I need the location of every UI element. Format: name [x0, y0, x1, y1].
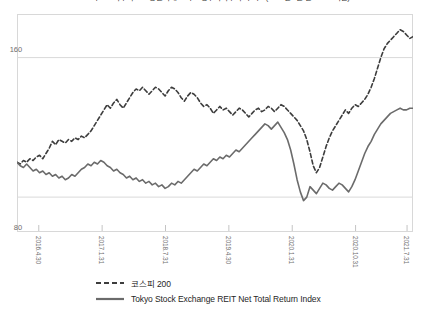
y-axis-tick-label: 80 [0, 223, 22, 232]
x-axis-tick-label: 2020.1.31 [288, 236, 295, 264]
x-axis-tick-label: 2018.7.31 [162, 236, 169, 264]
chart-legend: 코스피 200 Tokyo Stock Exchange REIT Net To… [96, 276, 376, 308]
chart-title: 코스피 200 지수와 도쿄증권거래소 리츠 총수익지수 추이 비교(2016년… [0, 0, 427, 2]
x-axis-tick-label: 2016.4.30 [35, 236, 42, 264]
legend-item-kospi200: 코스피 200 [96, 276, 376, 290]
x-axis-tick-label: 2020.10.31 [352, 236, 359, 268]
x-tick-marks [39, 225, 407, 231]
x-axis-tick-label: 2017.1.31 [98, 236, 105, 264]
solid-line-swatch-icon [96, 294, 124, 304]
series-lines [17, 30, 413, 201]
plot-canvas [17, 14, 413, 232]
legend-label-tse-reit: Tokyo Stock Exchange REIT Net Total Retu… [131, 294, 321, 304]
gridlines [17, 58, 413, 198]
legend-item-tse-reit: Tokyo Stock Exchange REIT Net Total Retu… [96, 292, 376, 306]
x-axis-tick-label: 2019.4.30 [225, 236, 232, 264]
chart-figure: 코스피 200 지수와 도쿄증권거래소 리츠 총수익지수 추이 비교(2016년… [0, 0, 427, 327]
dashed-line-swatch-icon [96, 278, 124, 288]
x-axis-tick-label: 2021.7.31 [403, 236, 410, 264]
y-axis-tick-label: 160 [0, 45, 22, 54]
legend-label-kospi200: 코스피 200 [131, 277, 171, 289]
